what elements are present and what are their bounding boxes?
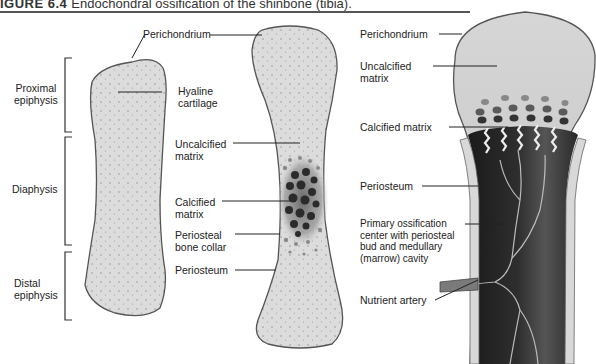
label-line: center with periosteal	[360, 230, 455, 242]
diaphysis-label: Diaphysis	[12, 183, 58, 195]
label-line: Calcified	[175, 196, 215, 208]
label-line: matrix	[175, 208, 215, 220]
label-line: Hyaline	[178, 85, 218, 97]
label-line: Distal	[14, 277, 58, 289]
label-line: bone collar	[175, 241, 226, 253]
uncalcified-matrix-label-stage3: Uncalcified matrix	[360, 60, 411, 84]
proximal-epiphysis-bracket	[65, 58, 72, 132]
perichondrium-label-stage2: Perichondrium	[143, 28, 211, 40]
label-line: bud and medullary	[360, 241, 455, 253]
primary-ossification-center-label: Primary ossification center with periost…	[360, 218, 455, 264]
label-line: epiphysis	[14, 289, 58, 301]
label-line: Primary ossification	[360, 218, 455, 230]
periosteum-label-stage3: Periosteum	[360, 180, 413, 192]
uncalcified-matrix-label-stage2: Uncalcified matrix	[175, 138, 226, 162]
ossification-illustration	[0, 0, 596, 364]
label-line: Uncalcified	[175, 138, 226, 150]
proximal-epiphysis-label: Proximal epiphysis	[14, 82, 58, 106]
bone-collar-left	[460, 138, 479, 364]
calcified-matrix-label-stage2: Calcified matrix	[175, 196, 215, 220]
perichondrium-label-stage3: Perichondrium	[360, 28, 428, 40]
cartilage-model-bone	[85, 60, 166, 316]
label-line: Proximal	[14, 82, 58, 94]
label-line: Periosteal	[175, 229, 226, 241]
label-line: (marrow) cavity	[360, 253, 455, 265]
label-line: epiphysis	[14, 94, 58, 106]
label-line: matrix	[360, 72, 411, 84]
nutrient-artery	[440, 278, 478, 292]
distal-epiphysis-bracket	[65, 252, 72, 320]
label-line: matrix	[175, 150, 226, 162]
periosteal-bone-collar-label: Periosteal bone collar	[175, 229, 226, 253]
hyaline-cartilage-label: Hyaline cartilage	[178, 85, 218, 109]
label-line: Uncalcified	[360, 60, 411, 72]
distal-epiphysis-label: Distal epiphysis	[14, 277, 58, 301]
calcified-matrix-label-stage3: Calcified matrix	[360, 121, 432, 133]
region-brackets	[65, 58, 72, 320]
periosteum-label-stage2: Periosteum	[175, 264, 228, 276]
nutrient-artery-label: Nutrient artery	[360, 294, 427, 306]
label-line: cartilage	[178, 97, 218, 109]
ossifying-bone	[440, 12, 595, 364]
diaphysis-bracket	[65, 137, 72, 245]
